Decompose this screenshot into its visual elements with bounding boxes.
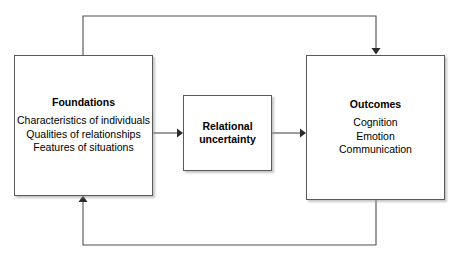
node-outcomes-item-1: Emotion [339,130,412,144]
node-relational-uncertainty-title: Relational uncertainty [199,120,256,147]
node-foundations-item-0: Characteristics of individuals [17,114,150,128]
node-foundations[interactable]: Foundations Characteristics of individua… [14,55,153,196]
node-outcomes-title: Outcomes [350,98,401,111]
node-outcomes-item-2: Communication [339,143,412,157]
node-foundations-item-2: Features of situations [17,141,150,155]
node-outcomes-item-0: Cognition [339,116,412,130]
node-foundations-title: Foundations [52,96,115,109]
edge-uncertainty-to-outcomes [272,129,306,138]
node-foundations-items: Characteristics of individuals Qualities… [17,114,150,155]
node-relational-uncertainty[interactable]: Relational uncertainty [183,95,272,171]
node-outcomes[interactable]: Outcomes Cognition Emotion Communication [306,55,445,200]
diagram-canvas: Foundations Characteristics of individua… [0,0,460,261]
node-outcomes-items: Cognition Emotion Communication [339,116,412,157]
edge-foundations-to-outcomes-top [83,16,381,55]
edge-outcomes-to-foundations-bottom [79,196,377,246]
edge-foundations-to-uncertainty [153,129,183,138]
node-foundations-item-1: Qualities of relationships [17,128,150,142]
